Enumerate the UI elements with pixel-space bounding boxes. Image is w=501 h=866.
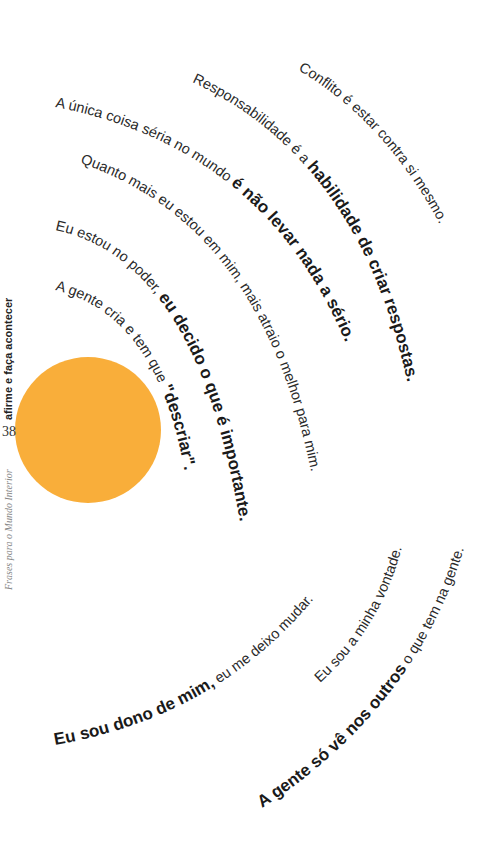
quote-a-gente-so-ve: A gente só vê nos outros o que tem na ge…	[254, 545, 467, 812]
chapter-title: afirme e faça acontecer	[2, 297, 14, 420]
page-canvas: afirme e faça acontecer 38 Frases para o…	[0, 0, 501, 866]
book-page: afirme e faça acontecer 38 Frases para o…	[0, 0, 501, 866]
quote-conflito: Conflito é estar contra si mesmo.	[296, 59, 451, 226]
quote-responsabilidade: Responsabilidade é a habilidade de criar…	[191, 70, 422, 383]
quote-minha-vontade: Eu sou a minha vontade.	[311, 544, 405, 685]
book-title: Frases para o Mundo Interior	[3, 469, 14, 591]
orange-sun-circle-icon	[15, 357, 161, 503]
quote-eu-sou-dono: Eu sou dono de mim, eu me deixo mudar.	[52, 591, 316, 749]
page-number: 38	[2, 424, 16, 439]
